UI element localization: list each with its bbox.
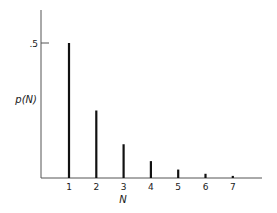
x-tick-label: 3 <box>121 182 127 192</box>
y-tick-label: .5 <box>29 39 38 49</box>
probability-bar-chart: .5 p(N) 1234567 N <box>0 0 277 213</box>
x-tick-label: 7 <box>230 182 236 192</box>
x-tick-label: 6 <box>203 182 209 192</box>
x-tick-label: 4 <box>148 182 154 192</box>
x-tick-label: 5 <box>175 182 181 192</box>
bars-group <box>69 43 233 178</box>
x-tick-label: 1 <box>66 182 72 192</box>
x-tick-labels: 1234567 <box>66 182 236 192</box>
x-tick-label: 2 <box>93 182 99 192</box>
y-axis-label: p(N) <box>14 94 37 105</box>
x-axis-label: N <box>119 194 127 205</box>
